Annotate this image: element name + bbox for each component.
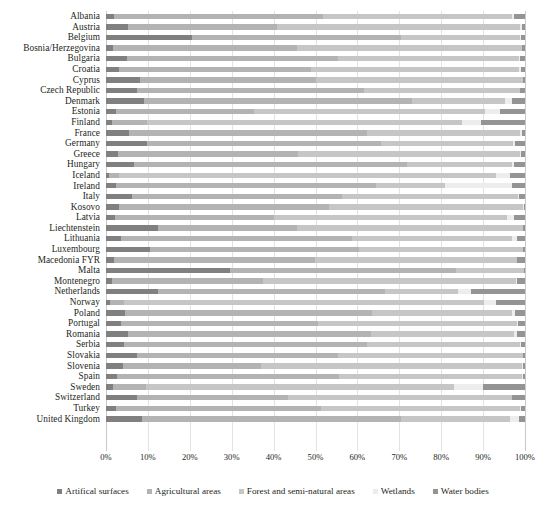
bar-segment-forest[interactable]: [412, 98, 505, 103]
stacked-bar[interactable]: [106, 35, 525, 40]
bar-segment-forest[interactable]: [254, 109, 484, 114]
bar-row[interactable]: [106, 128, 525, 139]
stacked-bar[interactable]: [106, 225, 525, 230]
bar-segment-wetlands[interactable]: [462, 120, 481, 125]
bar-segment-forest[interactable]: [321, 406, 519, 411]
stacked-bar[interactable]: [106, 77, 525, 82]
stacked-bar[interactable]: [106, 141, 525, 146]
bar-segment-agricultural[interactable]: [115, 215, 274, 220]
bar-segment-agricultural[interactable]: [113, 384, 147, 389]
bar-segment-forest[interactable]: [371, 331, 514, 336]
bar-segment-forest[interactable]: [359, 247, 522, 252]
bar-row[interactable]: [106, 255, 525, 266]
bar-segment-agricultural[interactable]: [117, 374, 339, 379]
bar-segment-artifical[interactable]: [106, 257, 114, 262]
bar-segment-agricultural[interactable]: [121, 236, 351, 241]
bar-segment-forest[interactable]: [146, 384, 454, 389]
bar-segment-wetlands[interactable]: [445, 183, 512, 188]
bar-segment-agricultural[interactable]: [121, 321, 318, 326]
bar-segment-forest[interactable]: [298, 151, 520, 156]
bar-row[interactable]: [106, 106, 525, 117]
bar-segment-forest[interactable]: [316, 77, 523, 82]
stacked-bar[interactable]: [106, 353, 525, 358]
bar-segment-water[interactable]: [521, 342, 525, 347]
bar-segment-artifical[interactable]: [106, 268, 230, 273]
bar-segment-artifical[interactable]: [106, 363, 123, 368]
stacked-bar[interactable]: [106, 310, 525, 315]
bar-segment-artifical[interactable]: [106, 416, 142, 421]
stacked-bar[interactable]: [106, 321, 525, 326]
bar-row[interactable]: [106, 339, 525, 350]
bar-segment-water[interactable]: [524, 268, 525, 273]
bar-segment-artifical[interactable]: [106, 35, 192, 40]
bar-segment-forest[interactable]: [338, 353, 523, 358]
stacked-bar[interactable]: [106, 24, 525, 29]
bar-segment-forest[interactable]: [315, 257, 517, 262]
bar-row[interactable]: [106, 403, 525, 414]
bar-row[interactable]: [106, 85, 525, 96]
bar-segment-forest[interactable]: [339, 374, 522, 379]
bar-segment-water[interactable]: [471, 289, 525, 294]
stacked-bar[interactable]: [106, 236, 525, 241]
bar-segment-agricultural[interactable]: [129, 130, 368, 135]
bar-segment-water[interactable]: [519, 416, 525, 421]
bar-segment-agricultural[interactable]: [192, 35, 402, 40]
bar-segment-artifical[interactable]: [106, 236, 121, 241]
bar-segment-water[interactable]: [522, 45, 525, 50]
bar-segment-forest[interactable]: [261, 363, 522, 368]
bar-segment-agricultural[interactable]: [142, 416, 402, 421]
stacked-bar[interactable]: [106, 109, 525, 114]
bar-segment-forest[interactable]: [352, 236, 512, 241]
stacked-bar[interactable]: [106, 88, 525, 93]
bar-row[interactable]: [106, 223, 525, 234]
bar-row[interactable]: [106, 170, 525, 181]
bar-row[interactable]: [106, 233, 525, 244]
bar-segment-forest[interactable]: [277, 24, 521, 29]
bar-row[interactable]: [106, 308, 525, 319]
bar-row[interactable]: [106, 350, 525, 361]
bar-segment-agricultural[interactable]: [158, 225, 296, 230]
bar-segment-water[interactable]: [524, 204, 525, 209]
stacked-bar[interactable]: [106, 204, 525, 209]
bar-row[interactable]: [106, 11, 525, 22]
legend-item[interactable]: Artifical surfaces: [57, 486, 129, 496]
bar-segment-agricultural[interactable]: [109, 173, 119, 178]
bar-segment-forest[interactable]: [381, 141, 513, 146]
bar-segment-water[interactable]: [517, 278, 525, 283]
bar-segment-forest[interactable]: [297, 225, 523, 230]
bar-row[interactable]: [106, 43, 525, 54]
bar-row[interactable]: [106, 414, 525, 425]
stacked-bar[interactable]: [106, 162, 525, 167]
bar-segment-artifical[interactable]: [106, 183, 116, 188]
bar-segment-water[interactable]: [483, 384, 525, 389]
bar-row[interactable]: [106, 191, 525, 202]
bar-segment-forest[interactable]: [297, 45, 522, 50]
bar-segment-forest[interactable]: [401, 416, 510, 421]
bar-segment-agricultural[interactable]: [114, 14, 324, 19]
bar-segment-agricultural[interactable]: [112, 120, 148, 125]
bar-segment-forest[interactable]: [364, 88, 520, 93]
bar-segment-agricultural[interactable]: [144, 98, 412, 103]
bar-segment-water[interactable]: [523, 353, 525, 358]
bar-row[interactable]: [106, 361, 525, 372]
stacked-bar[interactable]: [106, 257, 525, 262]
bar-segment-agricultural[interactable]: [116, 406, 321, 411]
bar-row[interactable]: [106, 276, 525, 287]
bar-segment-artifical[interactable]: [106, 151, 118, 156]
stacked-bar[interactable]: [106, 374, 525, 379]
bar-segment-agricultural[interactable]: [147, 141, 382, 146]
bar-row[interactable]: [106, 329, 525, 340]
bar-segment-artifical[interactable]: [106, 342, 124, 347]
bar-segment-forest[interactable]: [124, 300, 484, 305]
bar-segment-artifical[interactable]: [106, 24, 128, 29]
bar-segment-artifical[interactable]: [106, 310, 125, 315]
bar-segment-artifical[interactable]: [106, 289, 158, 294]
bar-segment-water[interactable]: [523, 363, 525, 368]
bar-segment-water[interactable]: [481, 120, 525, 125]
bar-segment-artifical[interactable]: [106, 374, 117, 379]
bar-segment-wetlands[interactable]: [510, 416, 518, 421]
bar-segment-agricultural[interactable]: [128, 331, 371, 336]
bar-segment-water[interactable]: [515, 310, 525, 315]
stacked-bar[interactable]: [106, 98, 525, 103]
bar-segment-agricultural[interactable]: [114, 257, 315, 262]
